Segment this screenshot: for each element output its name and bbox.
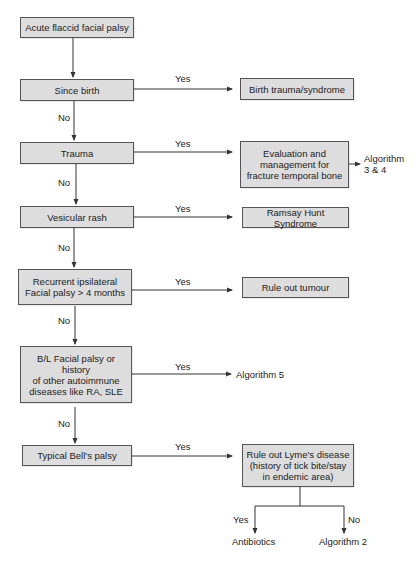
edge-label-bells-yes: Yes xyxy=(175,441,191,452)
node-rule-out-tumour: Rule out tumour xyxy=(242,277,349,298)
edge-label-bilateral-yes: Yes xyxy=(175,361,191,372)
edge-label-recurrent-yes: Yes xyxy=(175,276,191,287)
label-algorithm-3-4: Algorithm 3 & 4 xyxy=(364,153,404,175)
label-line-1: Algorithm xyxy=(364,153,404,164)
node-label-line-2: management for xyxy=(260,159,329,170)
node-since-birth: Since birth xyxy=(20,79,134,101)
node-label-line-1: Evaluation and xyxy=(263,148,326,159)
node-evaluation-fracture-temporal-bone: Evaluation and management for fracture t… xyxy=(240,141,349,188)
edge-label-vesicular-no: No xyxy=(58,242,70,253)
edge-label-vesicular-yes: Yes xyxy=(175,203,191,214)
node-acute-flaccid-facial-palsy: Acute flaccid facial palsy xyxy=(20,17,134,38)
node-label-line-1: B/L Facial palsy or history xyxy=(24,353,128,375)
node-label: Ramsay Hunt Syndrome xyxy=(246,207,345,229)
node-label-line-2: (history of tick bite/stay xyxy=(250,460,347,471)
node-ramsay-hunt-syndrome: Ramsay Hunt Syndrome xyxy=(242,207,349,228)
node-recurrent-ipsilateral-palsy: Recurrent ipsilateral Facial palsy > 4 m… xyxy=(18,269,132,305)
node-label: Acute flaccid facial palsy xyxy=(25,22,129,33)
node-trauma: Trauma xyxy=(20,142,134,164)
label-line-2: 3 & 4 xyxy=(364,164,404,175)
node-birth-trauma-syndrome: Birth trauma/syndrome xyxy=(240,78,354,100)
node-label: Since birth xyxy=(55,85,100,96)
node-typical-bells-palsy: Typical Bell's palsy xyxy=(22,445,132,466)
node-label-line-1: Rule out Lyme's disease xyxy=(247,449,350,460)
node-vesicular-rash: Vesicular rash xyxy=(20,206,134,228)
edge-label-recurrent-no: No xyxy=(58,315,70,326)
label-antibiotics: Antibiotics xyxy=(232,536,275,547)
edge-label-trauma-yes: Yes xyxy=(175,138,191,149)
node-label: Rule out tumour xyxy=(262,282,330,293)
label-algorithm-2: Algorithm 2 xyxy=(319,536,367,547)
node-label: Trauma xyxy=(61,148,93,159)
node-label-line-3: fracture temporal bone xyxy=(247,170,343,181)
node-label-line-1: Recurrent ipsilateral xyxy=(33,276,117,287)
node-label: Typical Bell's palsy xyxy=(37,450,116,461)
edge-label-trauma-no: No xyxy=(58,177,70,188)
node-label-line-3: in endemic area) xyxy=(263,471,334,482)
node-label-line-3: diseases like RA, SLE xyxy=(29,386,122,397)
label-algorithm-5: Algorithm 5 xyxy=(236,369,284,380)
node-label: Vesicular rash xyxy=(47,212,107,223)
node-label-line-2: of other autoimmune xyxy=(32,375,119,386)
edge-label-since-birth-no: No xyxy=(58,112,70,123)
edge-label-since-birth-yes: Yes xyxy=(175,73,191,84)
edge-label-bilateral-no: No xyxy=(58,418,70,429)
edge-label-lyme-no: No xyxy=(348,514,360,525)
node-bilateral-autoimmune: B/L Facial palsy or history of other aut… xyxy=(20,346,132,403)
node-rule-out-lymes-disease: Rule out Lyme's disease (history of tick… xyxy=(242,444,354,487)
node-label-line-2: Facial palsy > 4 months xyxy=(25,287,125,298)
edge-label-lyme-yes: Yes xyxy=(233,514,249,525)
node-label: Birth trauma/syndrome xyxy=(249,84,345,95)
